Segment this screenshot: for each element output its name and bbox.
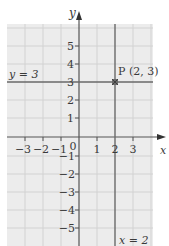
- y-axis-arrow-icon: [76, 11, 82, 20]
- svg-text:5: 5: [67, 40, 74, 53]
- svg-text:−3: −3: [59, 186, 75, 199]
- svg-text:2: 2: [67, 94, 74, 107]
- y-axis-label: y: [68, 6, 76, 20]
- svg-text:−2: −2: [33, 143, 49, 156]
- horizontal-line-label: y = 3: [8, 68, 38, 81]
- svg-text:4: 4: [67, 58, 74, 71]
- svg-text:1: 1: [94, 143, 101, 156]
- svg-text:2: 2: [112, 143, 119, 156]
- svg-text:−1: −1: [51, 143, 67, 156]
- x-axis-arrow-icon: [157, 134, 166, 140]
- svg-text:−5: −5: [59, 222, 75, 235]
- svg-text:3: 3: [130, 143, 137, 156]
- grid-background: [7, 24, 153, 246]
- point-p-label: P (2, 3): [118, 65, 158, 78]
- x-axis-label: x: [160, 144, 167, 157]
- svg-text:−4: −4: [59, 204, 75, 217]
- coordinate-plane: y x 5 4 3 2 1 −1 −2 −3 −4 −5 −3 −2 −1 0 …: [0, 0, 169, 246]
- svg-text:1: 1: [67, 112, 74, 125]
- vertical-line-label: x = 2: [119, 234, 148, 246]
- svg-text:3: 3: [67, 76, 74, 89]
- svg-text:−2: −2: [59, 168, 75, 181]
- svg-text:0: 0: [70, 140, 77, 153]
- svg-text:−3: −3: [15, 143, 31, 156]
